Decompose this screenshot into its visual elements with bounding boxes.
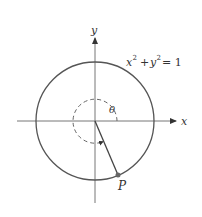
y-axis-label: y: [90, 24, 98, 37]
eq-equals: = 1: [162, 56, 182, 69]
theta-label: θ: [109, 104, 115, 115]
point-p-label: P: [117, 179, 127, 193]
circle-equation: x 2 + y 2 = 1: [126, 54, 182, 69]
x-axis-label: x: [181, 115, 188, 128]
eq-x-exp: 2: [133, 54, 137, 62]
radius-line: [95, 121, 118, 175]
eq-y-exp: 2: [157, 54, 161, 62]
eq-plus: +: [140, 56, 149, 69]
unit-circle-diagram: y x θ P x 2 + y 2 = 1: [0, 0, 202, 217]
diagram-svg: y x θ P x 2 + y 2 = 1: [0, 0, 202, 217]
point-p: [116, 173, 121, 178]
